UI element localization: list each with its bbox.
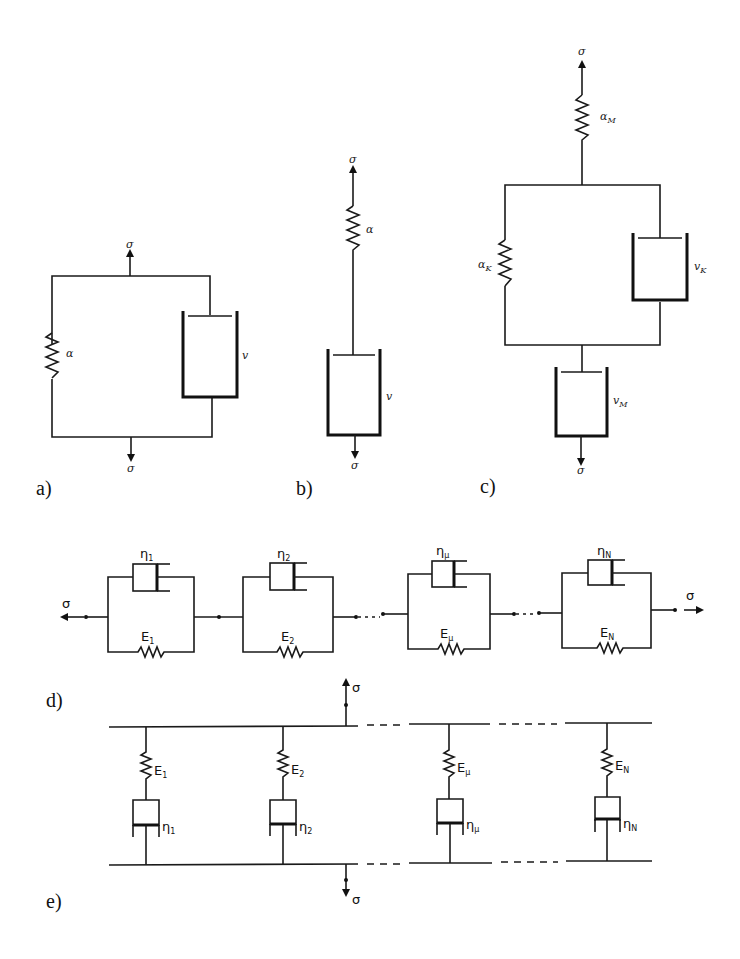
frame-left	[243, 577, 270, 617]
dashpot-icon	[588, 560, 612, 585]
sigma-bottom-label: σ	[352, 892, 360, 907]
dashpot-icon	[270, 563, 294, 590]
frame-bottom	[505, 286, 660, 345]
spring-label: α	[366, 223, 374, 236]
panel-label-c: c)	[480, 475, 496, 498]
E-label: EN	[615, 758, 629, 775]
panel-a-kelvin-voigt: σ α v σ a)	[36, 238, 249, 500]
dashpot-icon	[183, 311, 237, 397]
top-rail	[109, 726, 358, 727]
eta-label: ημ	[466, 817, 479, 834]
frame-right	[612, 573, 651, 613]
dashpot-k-icon	[633, 233, 687, 300]
kelvin-unit-1: η1 E1	[108, 546, 194, 657]
dashpot-label: v	[242, 349, 249, 362]
panel-d-kelvin-chain: σ η1 E1 η2 E2	[46, 543, 700, 712]
frame-top	[505, 185, 660, 240]
spring-icon	[602, 723, 612, 797]
node	[217, 615, 221, 619]
sigma-left-label: σ	[62, 596, 70, 611]
frame-right	[294, 577, 333, 617]
panel-label-e: e)	[46, 890, 62, 913]
eta-label: ηN	[623, 816, 637, 833]
E-label: E2	[281, 629, 294, 646]
eta-label: η2	[299, 819, 312, 836]
node	[344, 878, 348, 882]
panel-label-a: a)	[36, 477, 52, 500]
eta-label: η2	[277, 546, 290, 563]
dashpot-icon	[270, 800, 296, 825]
spring-m-label: αM	[600, 110, 616, 125]
frame-right	[157, 577, 194, 617]
sigma-top-label: σ	[126, 238, 134, 251]
dashpot-label: v	[386, 390, 393, 403]
dashpot-icon	[328, 349, 380, 435]
E-label: Eμ	[457, 760, 470, 777]
sigma-top-label: σ	[578, 45, 586, 58]
maxwell-unit-N: EN ηN	[595, 723, 637, 861]
E-label: E2	[291, 762, 304, 779]
panel-e-generalized-maxwell: σ σ E1 η1 E2	[46, 680, 652, 913]
sigma-top-label: σ	[349, 153, 357, 166]
spring-icon	[278, 726, 288, 800]
eta-label: ηN	[597, 543, 611, 560]
panel-label-b: b)	[296, 477, 313, 500]
E-label: E1	[141, 629, 154, 646]
frame-bottom	[52, 379, 212, 437]
sigma-right-label: σ	[686, 588, 694, 603]
maxwell-unit-1: E1 η1	[133, 727, 175, 865]
sigma-bottom-label: σ	[577, 464, 585, 477]
node	[344, 703, 348, 707]
spring-label: α	[66, 347, 74, 360]
panel-b-maxwell: σ α v σ b)	[296, 153, 393, 500]
maxwell-unit-mu: Eμ ημ	[437, 724, 479, 863]
node	[512, 612, 516, 616]
dashpot-icon	[133, 564, 157, 591]
kelvin-unit-mu: ημ Eμ	[408, 543, 490, 654]
panel-label-d: d)	[46, 689, 63, 712]
spring-icon	[347, 206, 359, 355]
node	[354, 615, 358, 619]
dashpot-icon	[595, 797, 620, 821]
dashpot-icon	[437, 799, 463, 824]
E-label: Eμ	[440, 626, 453, 643]
spring-k-icon	[499, 240, 511, 286]
spring-icon	[46, 333, 58, 378]
eta-label: η1	[162, 819, 175, 836]
dashpot-k-label: vK	[694, 260, 707, 275]
dashpot-m-icon	[556, 367, 607, 436]
eta-label: η1	[140, 546, 153, 563]
kelvin-unit-N: ηN EN	[562, 543, 651, 653]
frame-top	[52, 276, 210, 345]
E-label: E1	[154, 763, 167, 780]
sigma-bottom-label: σ	[127, 462, 135, 475]
E-label: EN	[600, 625, 614, 642]
frame-right	[454, 574, 490, 614]
kelvin-unit-2: η2 E2	[243, 546, 333, 657]
spring-m-icon	[576, 95, 588, 185]
spring-icon	[444, 724, 454, 799]
frame-left	[108, 577, 133, 617]
node	[673, 608, 677, 612]
dashpot-m-label: vM	[613, 394, 628, 409]
maxwell-unit-2: E2 η2	[270, 726, 312, 864]
frame-left	[562, 573, 588, 613]
sigma-top-label: σ	[352, 680, 360, 695]
spring-k-label: αK	[478, 258, 492, 273]
eta-label: ημ	[436, 543, 449, 560]
dashpot-icon	[432, 561, 454, 587]
spring-icon	[141, 727, 151, 800]
rheological-models-figure: σ α v σ a) σ α v σ b) σ αM	[0, 0, 740, 959]
panel-c-burgers: σ αM αK vK vM σ c)	[478, 45, 707, 498]
dashpot-icon	[133, 800, 159, 826]
frame-left	[408, 574, 432, 614]
sigma-bottom-label: σ	[351, 459, 359, 472]
